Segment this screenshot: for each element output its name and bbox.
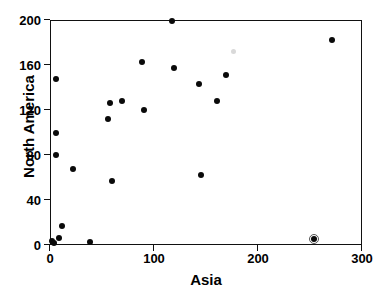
x-axis-tick-label: 100 <box>143 252 165 265</box>
y-axis-tick-label: 200 <box>19 14 41 27</box>
scatter-plot-figure: 040801201602000100200300 North America A… <box>0 0 386 299</box>
x-axis-tick-label: 300 <box>351 252 373 265</box>
plot-area-frame <box>50 20 362 245</box>
y-axis-tick <box>44 64 50 65</box>
y-axis-tick <box>44 19 50 20</box>
y-axis-tick <box>44 199 50 200</box>
y-axis-tick <box>44 154 50 155</box>
y-axis-title: North America <box>20 47 37 207</box>
x-axis-title: Asia <box>50 271 362 288</box>
x-axis-tick-label: 200 <box>247 252 269 265</box>
x-axis-tick-label: 0 <box>46 252 53 265</box>
y-axis-tick <box>44 109 50 110</box>
y-axis-tick-label: 0 <box>34 239 41 252</box>
